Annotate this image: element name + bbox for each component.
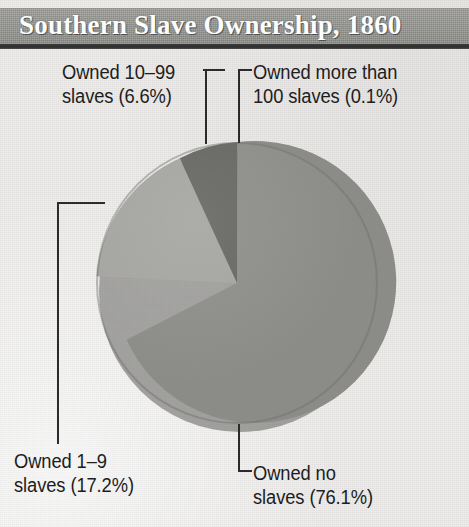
- leader-none-vertical: [238, 424, 240, 472]
- leader-100plus-vertical: [238, 69, 240, 143]
- label-owned-none: Owned no slaves (76.1%): [253, 461, 373, 509]
- label-owned-10-99: Owned 10–99 slaves (6.6%): [62, 60, 175, 108]
- leader-10-99-vertical: [205, 69, 207, 144]
- leader-none-horizontal: [238, 470, 252, 472]
- chart-title-banner: Southern Slave Ownership, 1860: [0, 8, 469, 44]
- label-owned-1-9: Owned 1–9 slaves (17.2%): [14, 449, 134, 497]
- label-owned-more-than-100: Owned more than 100 slaves (0.1%): [253, 60, 398, 108]
- leader-100plus-horizontal: [238, 69, 252, 71]
- leader-1-9-horizontal: [57, 202, 105, 204]
- title-underline-rule: [0, 44, 469, 49]
- leader-1-9-vertical: [57, 202, 59, 444]
- page-title: Southern Slave Ownership, 1860: [19, 10, 402, 41]
